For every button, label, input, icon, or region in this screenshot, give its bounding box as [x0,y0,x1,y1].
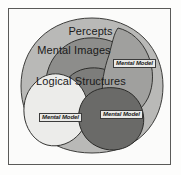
label-percepts: Percepts [0,26,181,38]
label-mental-images: Mental Images [0,45,148,57]
callout-mental-model-bottom-center: Mental Model [100,110,143,119]
label-logical-structures: Logical Structures [0,76,162,88]
diagram-page: Percepts Mental Images Logical Structure… [0,0,181,175]
callout-mental-model-bottom-left: Mental Model [39,113,82,122]
diagram-labels: Percepts Mental Images Logical Structure… [0,0,181,175]
callout-mental-model-right: Mental Model [113,59,156,68]
